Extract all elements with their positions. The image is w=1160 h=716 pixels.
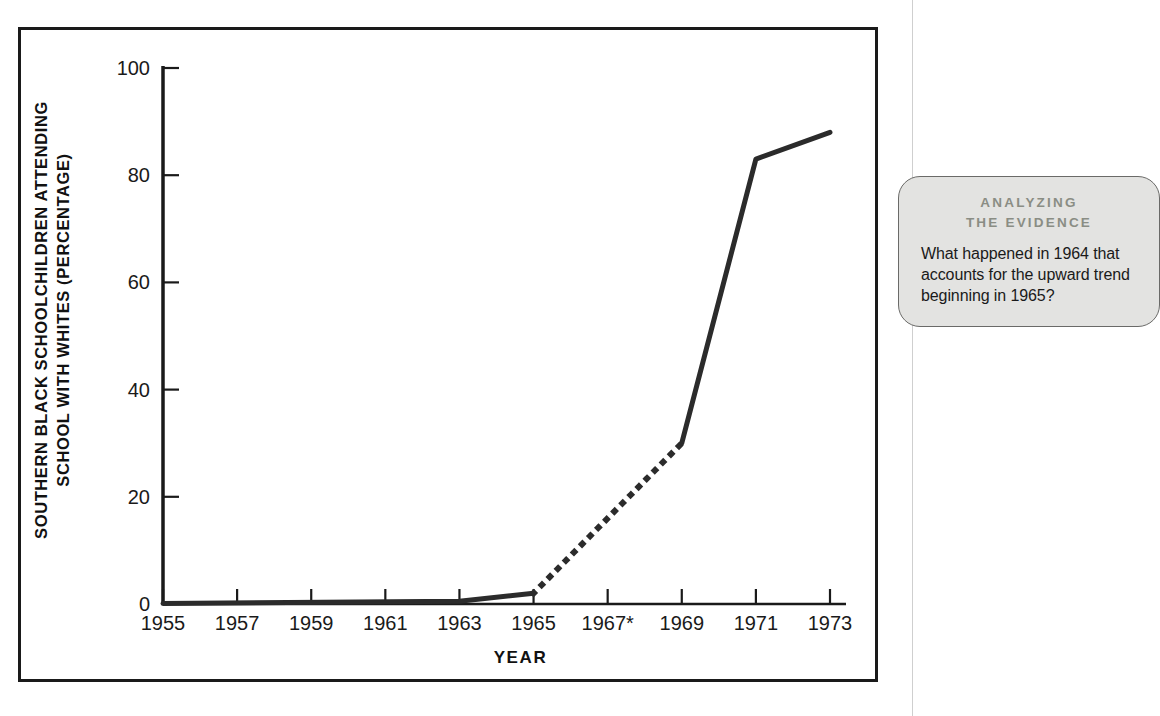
x-axis-title: YEAR [163,648,878,668]
callout-heading: ANALYZING THE EVIDENCE [921,193,1137,234]
chart-series [163,132,830,603]
chart-svg [0,0,900,640]
chart-line-1 [163,593,534,603]
plot-area [163,68,878,604]
chart-axes [163,66,846,604]
x-axis-tick-labels: 1955195719591961196319651967*19691971197… [163,612,878,642]
chart-line-2 [534,443,682,593]
analyzing-the-evidence-callout: ANALYZING THE EVIDENCE What happened in … [898,176,1160,327]
callout-body-text: What happened in 1964 that accounts for … [921,243,1137,306]
x-tick-label-1973: 1973 [780,612,880,635]
page-column-rule [912,0,913,716]
chart-line-3 [682,132,830,443]
